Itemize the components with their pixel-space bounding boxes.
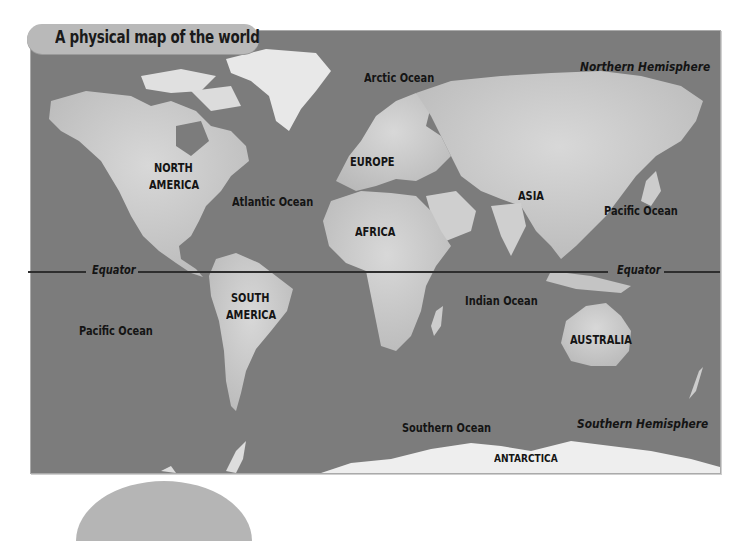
south-america-label-line1: SOUTH [231,291,269,305]
arctic-ocean-label: Arctic Ocean [364,71,434,85]
north-america-label-line1: NORTH [154,161,193,175]
next-section-tab-partial [76,481,252,541]
south-america-label-line2: AMERICA [226,308,276,322]
australia-label: AUSTRALIA [570,333,632,347]
pacific-ocean-west-label: Pacific Ocean [79,324,153,338]
northern-hemisphere-label: Northern Hemisphere [580,60,710,74]
world-map [30,30,721,474]
antarctica-label: ANTARCTICA [494,452,558,466]
equator-label-left: Equator [92,263,136,277]
equator-line-middle-segment [138,271,608,273]
pacific-ocean-east-label: Pacific Ocean [604,204,678,218]
africa-label: AFRICA [355,225,395,239]
southern-ocean-label: Southern Ocean [402,421,491,435]
map-title-tab: A physical map of the world [27,24,259,54]
map-graphic [31,31,720,473]
equator-label-right: Equator [617,263,661,277]
map-title: A physical map of the world [55,27,260,47]
southern-hemisphere-label: Southern Hemisphere [577,417,708,431]
equator-line-left-segment [28,271,86,273]
north-america-label-line2: AMERICA [149,178,199,192]
atlantic-ocean-label: Atlantic Ocean [232,195,313,209]
greenland-shape [226,49,331,131]
asia-label: ASIA [518,189,544,203]
europe-label: EUROPE [350,155,395,169]
south-america-shape [209,253,293,411]
indian-ocean-label: Indian Ocean [465,294,538,308]
equator-line-right-segment [664,271,720,273]
